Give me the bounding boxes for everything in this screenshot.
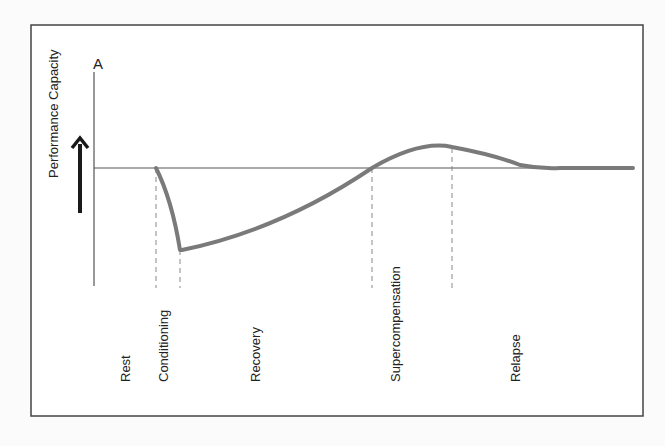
phase-label-relapse: Relapse bbox=[508, 334, 523, 382]
phase-label-rest: Rest bbox=[118, 355, 133, 382]
phase-label-recovery: Recovery bbox=[248, 327, 263, 382]
phase-label-conditioning: Conditioning bbox=[156, 310, 171, 382]
corner-label: A bbox=[93, 55, 103, 72]
phase-label-supercompensation: Supercompensation bbox=[388, 266, 403, 382]
supercompensation-diagram: A Performance Capacity Rest Conditioning… bbox=[0, 0, 665, 446]
y-axis-label: Performance Capacity bbox=[46, 49, 61, 178]
